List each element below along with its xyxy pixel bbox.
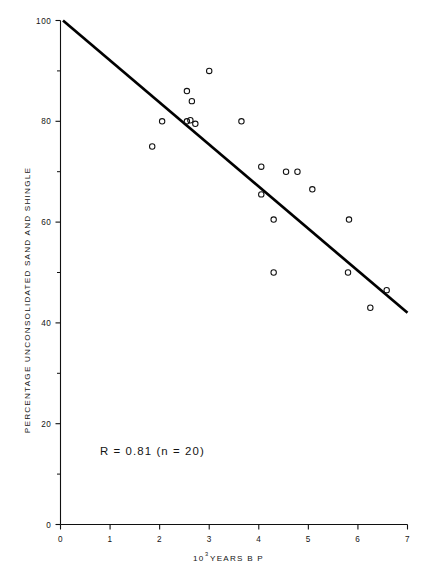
y-tick-label: 60 <box>41 218 51 227</box>
x-axis-title-mantissa: 10 <box>193 554 205 563</box>
x-tick-label: 6 <box>355 535 360 544</box>
x-tick-label: 7 <box>405 535 410 544</box>
y-tick-label: 80 <box>41 117 51 126</box>
x-axis-title-rest: YEARS B P <box>210 554 264 563</box>
x-tick-label: 1 <box>107 535 112 544</box>
y-axis-title: PERCENTAGE UNCONSOLIDATED SAND AND SHING… <box>23 167 32 433</box>
correlation-annotation: R = 0.81 (n = 20) <box>100 445 205 457</box>
x-tick-label: 4 <box>256 535 261 544</box>
y-tick-label: 100 <box>36 17 51 26</box>
x-tick-label: 2 <box>157 535 162 544</box>
chart-figure: 020406080100 01234567 PERCENTAGE UNCONSO… <box>0 0 428 577</box>
x-tick-label: 0 <box>58 535 63 544</box>
scatter-plot-svg: 020406080100 01234567 PERCENTAGE UNCONSO… <box>0 0 428 577</box>
x-tick-label: 5 <box>306 535 311 544</box>
y-tick-label: 20 <box>41 420 51 429</box>
y-tick-label: 40 <box>41 319 51 328</box>
plot-background <box>0 0 428 577</box>
x-axis-title-exponent: 3 <box>205 551 208 557</box>
x-tick-label: 3 <box>207 535 212 544</box>
y-tick-label: 0 <box>46 521 51 530</box>
